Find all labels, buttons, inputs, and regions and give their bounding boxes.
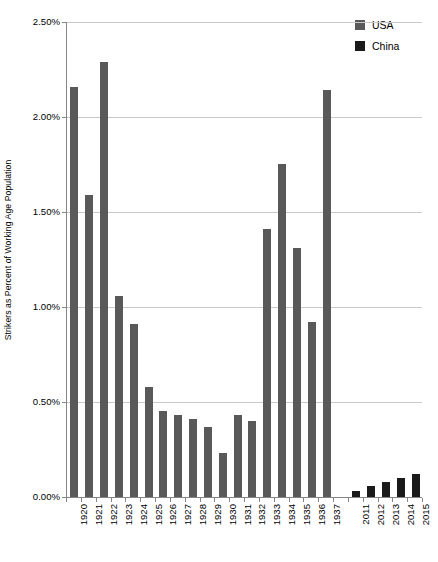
x-axis-tick-label: 1923	[122, 504, 136, 544]
bar-usa-1923	[115, 296, 123, 497]
x-axis-tick-label: 2012	[374, 504, 388, 544]
y-axis-tick-labels: 2.50%2.00%1.50%1.00%0.50%0.00%	[8, 22, 60, 497]
x-axis-tick	[407, 498, 408, 502]
x-axis-tick	[229, 498, 230, 502]
bar-series-container	[67, 22, 422, 497]
x-axis-tick	[111, 498, 112, 502]
x-axis-tick	[81, 498, 82, 502]
x-axis-tick-label: 1925	[152, 504, 166, 544]
y-axis-tick-label: 1.50%	[12, 207, 60, 217]
bar-china-2011	[352, 491, 360, 497]
bar-usa-1936	[308, 322, 316, 497]
y-axis-tick-label: 0.00%	[12, 492, 60, 502]
x-axis-tick	[289, 498, 290, 502]
bar-usa-1920	[70, 87, 78, 497]
x-axis-tick	[363, 498, 364, 502]
bar-usa-1929	[204, 427, 212, 497]
bar-usa-1927	[174, 415, 182, 497]
x-axis-tick-label: 2015	[419, 504, 433, 544]
bar-usa-1926	[159, 411, 167, 497]
x-axis-tick-label: 1921	[92, 504, 106, 544]
x-axis-tick-label: 1926	[166, 504, 180, 544]
x-axis-tick-labels: 1920192119221923192419251926192719281929…	[66, 498, 422, 558]
x-axis-tick	[170, 498, 171, 502]
bar-usa-1931	[234, 415, 242, 497]
x-axis-tick	[96, 498, 97, 502]
bar-usa-1934	[278, 164, 286, 497]
x-axis-tick-label: 1934	[285, 504, 299, 544]
x-axis-tick-label: 1920	[77, 504, 91, 544]
x-axis-tick	[348, 498, 349, 502]
bar-usa-1928	[189, 419, 197, 497]
x-axis-tick-label: 1922	[107, 504, 121, 544]
x-axis-tick-label: 1937	[330, 504, 344, 544]
x-axis-tick-label: 1936	[315, 504, 329, 544]
bar-usa-1921	[85, 195, 93, 497]
x-axis-tick-label: 1933	[270, 504, 284, 544]
x-axis-tick	[185, 498, 186, 502]
x-axis-tick	[214, 498, 215, 502]
x-axis-tick	[244, 498, 245, 502]
x-axis-tick-label: 2013	[389, 504, 403, 544]
x-axis-tick-label: 1931	[241, 504, 255, 544]
x-axis-tick-label: 1924	[137, 504, 151, 544]
bar-usa-1937	[323, 90, 331, 497]
x-axis-tick	[125, 498, 126, 502]
x-axis-tick	[140, 498, 141, 502]
y-axis-tick-label: 2.00%	[12, 112, 60, 122]
x-axis-tick	[378, 498, 379, 502]
y-axis-tick-label: 1.00%	[12, 302, 60, 312]
bar-usa-1930	[219, 453, 227, 497]
bar-usa-1924	[130, 324, 138, 497]
bar-chart: USA China Strikers as Percent of Working…	[0, 0, 438, 562]
y-axis-tick-label: 0.50%	[12, 397, 60, 407]
x-axis-tick-label: 2011	[359, 504, 373, 544]
x-axis-tick-label: 1935	[300, 504, 314, 544]
x-axis-tick	[392, 498, 393, 502]
bar-china-2012	[367, 486, 375, 497]
x-axis-tick-label: 1932	[255, 504, 269, 544]
x-axis-tick	[259, 498, 260, 502]
x-axis-tick	[155, 498, 156, 502]
bar-usa-1932	[248, 421, 256, 497]
y-axis-tick-label: 2.50%	[12, 17, 60, 27]
x-axis-tick	[274, 498, 275, 502]
x-axis-tick	[422, 498, 423, 502]
bar-china-2015	[412, 474, 420, 497]
bar-usa-1935	[293, 248, 301, 497]
plot-area	[66, 22, 422, 497]
bar-china-2014	[397, 478, 405, 497]
x-axis-tick	[66, 498, 67, 502]
x-axis-tick-label: 1929	[211, 504, 225, 544]
x-axis-tick	[200, 498, 201, 502]
x-axis-tick	[333, 498, 334, 502]
bar-usa-1925	[145, 387, 153, 497]
bar-usa-1933	[263, 229, 271, 497]
x-axis-tick-label: 2014	[404, 504, 418, 544]
bar-usa-1922	[100, 62, 108, 497]
bar-china-2013	[382, 482, 390, 497]
x-axis-tick-label: 1927	[181, 504, 195, 544]
x-axis-tick	[303, 498, 304, 502]
x-axis-tick-label: 1930	[226, 504, 240, 544]
x-axis-tick	[318, 498, 319, 502]
x-axis-tick-label: 1928	[196, 504, 210, 544]
